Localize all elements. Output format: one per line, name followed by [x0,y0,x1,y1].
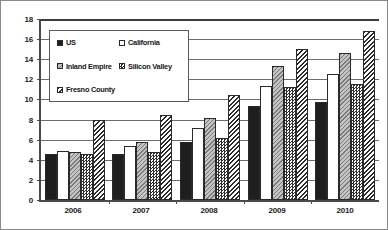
bar-us-2006 [45,154,57,200]
bar-chart: 20062007200820092010 USCaliforniaInland … [0,0,388,230]
x-tick-label-2009: 2009 [243,206,311,215]
y-tick-label: 16 [7,35,33,44]
bar-us-2010 [315,102,327,200]
legend-label-us: US [66,38,76,47]
x-tick-mark [176,200,177,204]
y-tick-label: 6 [7,135,33,144]
legend-item-ie[interactable]: Inland Empire [57,61,119,72]
y-tick-label: 12 [7,75,33,84]
legend-item-us[interactable]: US [57,37,119,48]
legend-label-fc: Fresno County [66,85,115,94]
x-tick-label-2007: 2007 [107,206,175,215]
bar-group-2010 [311,19,379,200]
legend-swatch-sv-icon [119,63,125,69]
x-tick-label-2006: 2006 [39,206,107,215]
bar-sv-2006 [81,154,93,200]
y-tick-label: 4 [7,155,33,164]
y-tick-label: 18 [7,15,33,24]
legend-label-ca: California [128,38,160,47]
bar-us-2009 [248,106,260,200]
bar-ie-2006 [69,152,81,200]
x-axis-labels: 20062007200820092010 [39,206,379,215]
bar-group-2009 [244,19,312,200]
y-tick-label: 2 [7,175,33,184]
legend-swatch-fc-icon [57,87,63,93]
legend-label-ie: Inland Empire [66,62,112,71]
bar-ca-2007 [124,146,136,200]
bar-ca-2008 [192,128,204,200]
bar-sv-2007 [148,152,160,200]
bar-ie-2008 [204,118,216,200]
y-tick-label: 14 [7,55,33,64]
bar-ie-2009 [272,66,284,200]
legend-swatch-ca-icon [119,40,125,46]
y-tick-label: 8 [7,115,33,124]
bar-us-2008 [180,142,192,200]
bar-sv-2008 [216,138,228,200]
legend-item-ca[interactable]: California [119,37,181,48]
legend-item-sv[interactable]: Silicon Valley [119,61,181,72]
legend-swatch-us-icon [57,40,63,46]
legend-item-fc[interactable]: Fresno County [57,84,181,95]
bar-sv-2009 [284,87,296,200]
bar-ie-2010 [339,53,351,200]
bar-fc-2010 [363,31,375,200]
x-tick-label-2010: 2010 [311,206,379,215]
bar-ie-2007 [136,142,148,200]
bar-us-2007 [112,154,124,200]
bar-sv-2010 [351,84,363,200]
bar-fc-2009 [296,49,308,200]
chart-legend: USCaliforniaInland EmpireSilicon ValleyF… [49,30,189,102]
legend-label-sv: Silicon Valley [128,62,172,71]
bar-ca-2009 [260,86,272,200]
bar-fc-2008 [228,95,240,200]
bar-fc-2006 [93,120,105,200]
bar-ca-2006 [57,151,69,200]
y-tick-label: 0 [7,196,33,205]
y-tick-mark [37,200,41,201]
x-tick-label-2008: 2008 [175,206,243,215]
x-tick-mark [244,200,245,204]
bar-fc-2007 [160,115,172,200]
x-tick-mark [109,200,110,204]
x-tick-mark [311,200,312,204]
bar-ca-2010 [327,74,339,200]
y-tick-label: 10 [7,95,33,104]
legend-swatch-ie-icon [57,63,63,69]
